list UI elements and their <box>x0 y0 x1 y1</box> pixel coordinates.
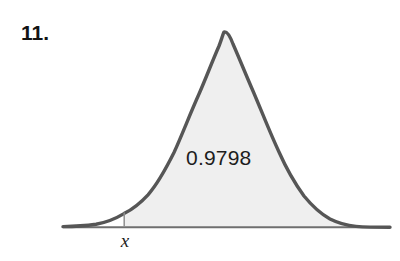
bell-curve-figure: 11. 0.9798 x <box>0 0 400 261</box>
shaded-area <box>124 32 390 228</box>
bell-curve-icon <box>0 0 400 261</box>
x-axis-tick-label: x <box>115 231 135 250</box>
area-probability-label: 0.9798 <box>186 147 251 168</box>
figure-number-label: 11. <box>21 22 49 43</box>
